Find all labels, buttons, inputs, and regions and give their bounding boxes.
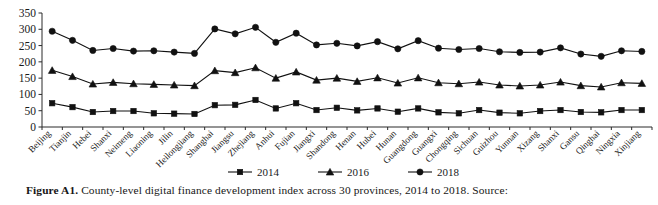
data-point — [192, 111, 197, 116]
data-point — [415, 38, 421, 44]
data-point — [334, 105, 339, 110]
legend-marker-square — [237, 169, 242, 174]
data-point — [476, 45, 482, 51]
x-axis-label: Shanxi — [536, 128, 561, 153]
data-point — [293, 101, 298, 106]
data-point — [90, 109, 95, 114]
data-point — [212, 26, 218, 32]
data-point — [171, 49, 177, 55]
data-point — [313, 42, 319, 48]
y-tick-label: 200 — [19, 56, 37, 68]
x-axis-label: Xizang — [515, 128, 541, 154]
data-point — [598, 53, 604, 59]
data-point — [48, 67, 56, 74]
caption-label: Figure A1. — [26, 184, 78, 196]
x-axis-label: Tianjin — [47, 128, 73, 154]
data-point — [292, 68, 300, 75]
data-point — [191, 50, 197, 56]
series-2018 — [49, 24, 645, 59]
data-point — [374, 39, 380, 45]
y-tick-label: 0 — [30, 121, 36, 133]
data-point — [354, 108, 359, 113]
data-point — [557, 78, 565, 85]
data-point — [395, 46, 401, 52]
data-point — [273, 106, 278, 111]
data-point — [639, 107, 644, 112]
series-2014 — [49, 97, 644, 116]
x-axis-label: Anhui — [253, 128, 277, 152]
caption-text: County-level digital finance development… — [81, 184, 508, 196]
data-point — [639, 48, 645, 54]
data-point — [598, 110, 603, 115]
legend-label: 2016 — [347, 166, 370, 178]
data-point — [497, 110, 502, 115]
legend-entry-2016[interactable]: 2016 — [318, 166, 370, 178]
data-point — [578, 109, 583, 114]
data-point — [557, 45, 563, 51]
line-chart: 050100150200250300350 BeijingTianjinHebe… — [0, 0, 658, 178]
data-point — [537, 108, 542, 113]
x-axis — [42, 127, 652, 130]
data-point — [456, 111, 461, 116]
chart-plot-area: 050100150200250300350 BeijingTianjinHebe… — [0, 0, 658, 178]
data-point — [314, 107, 319, 112]
data-point — [110, 45, 116, 51]
data-point — [354, 43, 360, 49]
data-point — [151, 48, 157, 54]
y-axis: 050100150200250300350 — [19, 7, 42, 133]
data-point — [334, 40, 340, 46]
legend-label: 2018 — [437, 166, 460, 178]
data-point — [212, 102, 217, 107]
data-point — [252, 24, 258, 30]
data-point — [435, 45, 441, 51]
y-tick-label: 350 — [19, 7, 37, 19]
data-point — [253, 97, 258, 102]
data-point — [436, 110, 441, 115]
data-point — [110, 108, 115, 113]
data-point — [293, 30, 299, 36]
data-point — [130, 48, 136, 54]
legend-entry-2014[interactable]: 2014 — [228, 166, 280, 178]
series-2016 — [48, 64, 645, 90]
data-point — [374, 74, 382, 81]
x-axis-label: Henan — [334, 128, 358, 152]
data-point — [69, 37, 75, 43]
legend-marker-circle — [417, 169, 423, 175]
legend-entry-2018[interactable]: 2018 — [408, 166, 460, 178]
data-point — [171, 111, 176, 116]
data-point — [131, 108, 136, 113]
data-point — [517, 111, 522, 116]
data-point — [619, 107, 624, 112]
data-point — [414, 74, 422, 81]
data-point — [273, 39, 279, 45]
data-point — [232, 31, 238, 37]
data-point — [375, 106, 380, 111]
data-point — [578, 51, 584, 57]
data-point — [415, 106, 420, 111]
data-point — [232, 102, 237, 107]
y-tick-label: 50 — [25, 105, 37, 117]
data-point — [476, 107, 481, 112]
data-point — [49, 101, 54, 106]
figure-container: 050100150200250300350 BeijingTianjinHebe… — [0, 0, 658, 205]
data-point — [517, 49, 523, 55]
data-point — [151, 111, 156, 116]
figure-caption: Figure A1. County-level digital finance … — [26, 183, 638, 197]
y-tick-label: 300 — [19, 23, 37, 35]
data-point — [558, 107, 563, 112]
y-tick-label: 100 — [19, 88, 37, 100]
series-layer — [48, 24, 645, 116]
chart-legend: 201420162018 — [228, 166, 460, 178]
y-tick-label: 150 — [19, 72, 37, 84]
data-point — [618, 48, 624, 54]
x-axis-label: Yunnan — [493, 128, 520, 155]
legend-label: 2014 — [257, 166, 280, 178]
data-point — [49, 28, 55, 34]
data-point — [70, 104, 75, 109]
data-point — [252, 64, 260, 71]
data-point — [90, 47, 96, 53]
data-point — [395, 109, 400, 114]
data-point — [496, 49, 502, 55]
x-category-labels: BeijingTianjinHebeiShanxiNeimengLiaoning… — [26, 128, 642, 169]
data-point — [456, 46, 462, 52]
